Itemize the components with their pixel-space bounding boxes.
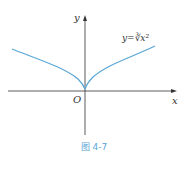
function-label: y=∛x² [122,33,149,43]
origin-label: O [73,94,81,105]
y-axis-arrow-icon [83,15,87,21]
x-axis-label: x [172,95,178,106]
x-axis-arrow-icon [171,89,177,93]
curve-right [85,46,155,89]
y-axis-label: y [74,12,80,23]
curve-left [12,49,85,89]
figure-caption: 图 4-7 [0,140,188,153]
